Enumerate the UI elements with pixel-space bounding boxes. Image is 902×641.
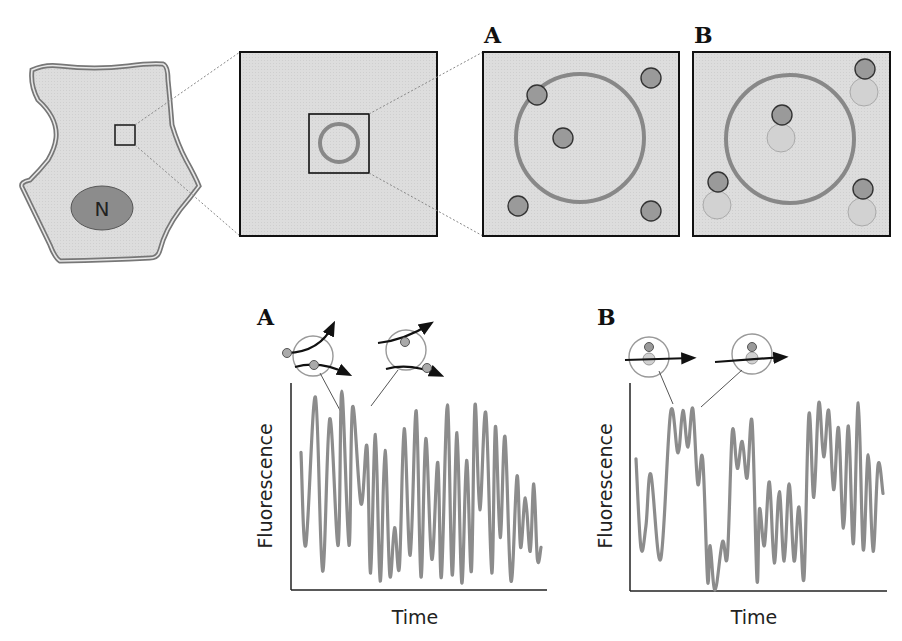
panel-a-letter: A (483, 22, 502, 48)
light-particle (767, 124, 795, 152)
plot-b-callout-lines (659, 370, 742, 407)
dark-particle (645, 343, 654, 352)
light-particle (703, 191, 731, 219)
plot-a-ylabel: Fluorescence (254, 423, 276, 548)
zoom-box-panel-a (483, 52, 679, 236)
panel-b-letter: B (694, 22, 713, 48)
dark-particle (708, 172, 728, 192)
plot-a-inset-1 (283, 325, 349, 376)
dark-particle (853, 179, 873, 199)
particle (641, 68, 661, 88)
particle (553, 128, 573, 148)
trajectory-arrow (625, 358, 692, 360)
plot-b: B Fluorescence Time (594, 304, 887, 628)
zoom-box-panel-b (693, 52, 890, 236)
plot-b-ylabel: Fluorescence (594, 423, 616, 548)
particle (641, 201, 661, 221)
figure-canvas: N A B (0, 0, 902, 641)
light-particle (850, 78, 878, 106)
cell-membrane (22, 64, 199, 261)
particle (508, 196, 528, 216)
plot-b-letter: B (597, 304, 616, 330)
zoom-box-overview (240, 52, 437, 236)
particle (527, 85, 547, 105)
plot-b-inset-2 (715, 334, 784, 374)
plot-a-callout-lines (320, 370, 398, 414)
nucleus-label: N (95, 197, 110, 221)
cell-illustration: N (22, 64, 199, 261)
plot-a-letter: A (256, 304, 275, 330)
particle (310, 361, 319, 370)
plot-a-inset-2 (378, 324, 440, 375)
plot-b-inset-1 (625, 337, 692, 377)
plot-b-trace (636, 402, 883, 590)
plot-a-xlabel: Time (391, 606, 439, 628)
plot-a: A Fluorescence Time (254, 304, 547, 628)
particle (283, 349, 292, 358)
plot-b-xlabel: Time (730, 606, 778, 628)
particle (401, 338, 410, 347)
dark-particle (748, 343, 757, 352)
dark-particle (772, 105, 792, 125)
dark-particle (855, 59, 875, 79)
light-particle (848, 198, 876, 226)
particle (423, 364, 432, 373)
plot-a-trace (301, 391, 541, 583)
